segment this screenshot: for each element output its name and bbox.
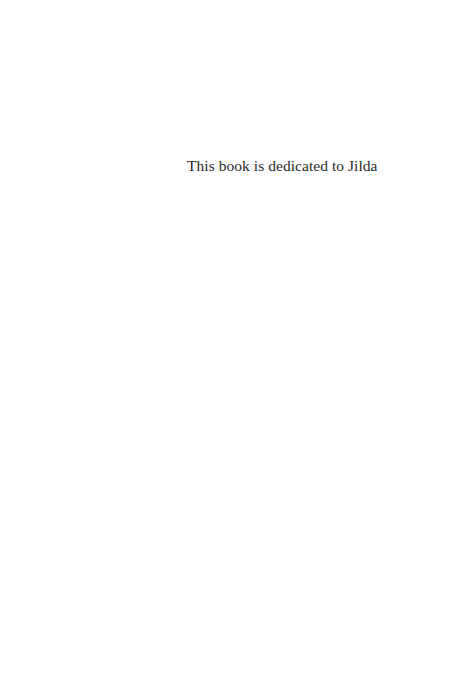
- dedication-text: This book is dedicated to Jilda: [187, 156, 378, 176]
- book-page: This book is dedicated to Jilda: [0, 0, 466, 686]
